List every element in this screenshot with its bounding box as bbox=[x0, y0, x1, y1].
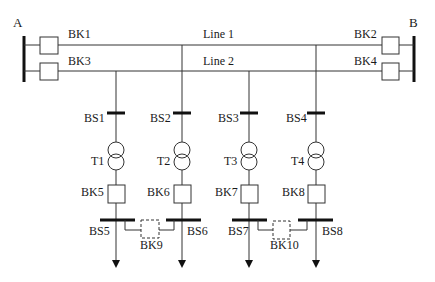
bk2-label: BK2 bbox=[354, 27, 377, 41]
breaker-bk3 bbox=[40, 63, 58, 80]
bk9-label: BK9 bbox=[140, 238, 163, 252]
line-2-label: Line 2 bbox=[203, 54, 234, 68]
tie-bk9: BK9 bbox=[125, 220, 174, 252]
bs2-label: BS2 bbox=[150, 111, 171, 125]
bs7-label: BS7 bbox=[228, 224, 249, 238]
bs6-label: BS6 bbox=[187, 224, 208, 238]
t4-label: T4 bbox=[291, 154, 304, 168]
bk1-label: BK1 bbox=[68, 27, 91, 41]
bus-b-label: B bbox=[409, 15, 418, 30]
bs3-label: BS3 bbox=[218, 111, 239, 125]
transformer-t2-secondary bbox=[174, 154, 190, 170]
bs8-label: BS8 bbox=[322, 224, 343, 238]
t1-label: T1 bbox=[91, 154, 104, 168]
bk3-label: BK3 bbox=[68, 54, 91, 68]
t3-label: T3 bbox=[224, 154, 237, 168]
breaker-bk2 bbox=[382, 37, 399, 54]
transformer-t1-primary bbox=[108, 142, 124, 158]
line-1-label: Line 1 bbox=[203, 27, 234, 41]
bs5-label: BS5 bbox=[89, 224, 110, 238]
breaker-bk4 bbox=[382, 63, 399, 80]
transformer-t4-primary bbox=[308, 142, 324, 158]
transformer-t3-secondary bbox=[241, 154, 257, 170]
bk6-label: BK6 bbox=[147, 185, 170, 199]
branch-3: BS3 T3 BK7 BS7 bbox=[215, 71, 267, 268]
load-arrow-3 bbox=[245, 260, 253, 268]
breaker-bk10 bbox=[273, 221, 290, 239]
breaker-bk5 bbox=[108, 185, 125, 203]
transformer-t4-secondary bbox=[308, 154, 324, 170]
transformer-t3-primary bbox=[241, 142, 257, 158]
breaker-bk9 bbox=[141, 220, 159, 238]
branch-1: BS1 T1 BK5 BS5 bbox=[81, 71, 135, 268]
bk10-label: BK10 bbox=[270, 238, 299, 252]
breaker-bk8 bbox=[308, 185, 325, 203]
load-arrow-2 bbox=[178, 260, 186, 268]
branch-4: BS4 T4 BK8 BS8 bbox=[282, 45, 343, 268]
tie-bk10: BK10 bbox=[258, 220, 307, 252]
breaker-bk7 bbox=[241, 185, 258, 203]
breaker-bk6 bbox=[174, 185, 191, 203]
bk7-label: BK7 bbox=[215, 185, 238, 199]
breaker-bk1 bbox=[40, 37, 58, 54]
load-arrow-1 bbox=[112, 260, 120, 268]
bk5-label: BK5 bbox=[81, 185, 104, 199]
bs1-label: BS1 bbox=[84, 111, 105, 125]
transformer-t1-secondary bbox=[108, 154, 124, 170]
bus-a-label: A bbox=[13, 15, 23, 30]
bk8-label: BK8 bbox=[282, 185, 305, 199]
bk4-label: BK4 bbox=[354, 54, 377, 68]
load-arrow-4 bbox=[312, 260, 320, 268]
t2-label: T2 bbox=[157, 154, 170, 168]
substation-diagram: A B BK1 Line 1 BK2 BK3 Line 2 BK4 BS1 T1… bbox=[0, 0, 435, 282]
transformer-t2-primary bbox=[174, 142, 190, 158]
bs4-label: BS4 bbox=[286, 111, 307, 125]
